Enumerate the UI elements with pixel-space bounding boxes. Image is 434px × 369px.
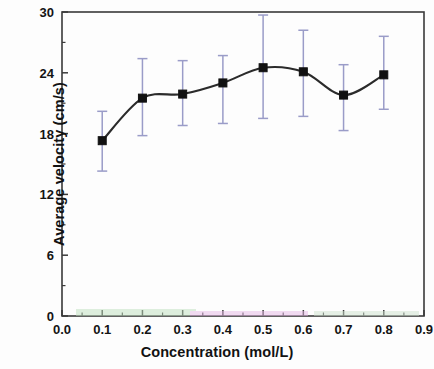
y-tick-label: 24 xyxy=(20,65,54,80)
x-tick-label: 0.0 xyxy=(53,322,71,337)
error-bar xyxy=(218,56,228,124)
x-tick-label: 0.2 xyxy=(133,322,151,337)
x-tick-label: 0.8 xyxy=(375,322,393,337)
x-tick-label: 0.4 xyxy=(214,322,232,337)
plot-frame xyxy=(62,12,424,316)
x-axis-title: Concentration (mol/L) xyxy=(0,344,434,360)
data-point-marker xyxy=(219,79,227,87)
plot-frame-rect xyxy=(62,12,424,316)
x-tick-label: 0.5 xyxy=(254,322,272,337)
x-tick-label: 0.7 xyxy=(335,322,353,337)
data-point-markers xyxy=(98,64,388,145)
y-axis-title: Average velocity (cm/s) xyxy=(51,12,67,316)
data-point-marker xyxy=(380,71,388,79)
data-point-marker xyxy=(259,64,267,72)
chart-figure: 0.00.10.20.30.40.50.60.70.80.9 061218243… xyxy=(0,0,434,369)
x-tick-label: 0.1 xyxy=(93,322,111,337)
y-tick-label: 12 xyxy=(20,187,54,202)
data-point-marker xyxy=(340,91,348,99)
trend-line xyxy=(102,67,384,141)
x-tick-label: 0.6 xyxy=(294,322,312,337)
y-tick-label: 30 xyxy=(20,5,54,20)
compression-artifacts xyxy=(76,309,419,316)
data-point-marker xyxy=(138,94,146,102)
data-point-marker xyxy=(179,90,187,98)
data-point-marker xyxy=(98,137,106,145)
y-tick-label: 18 xyxy=(20,126,54,141)
x-tick-label: 0.3 xyxy=(174,322,192,337)
y-tick-label: 0 xyxy=(20,309,54,324)
x-tick-label: 0.9 xyxy=(415,322,433,337)
y-tick-label: 6 xyxy=(20,248,54,263)
data-point-marker xyxy=(299,68,307,76)
